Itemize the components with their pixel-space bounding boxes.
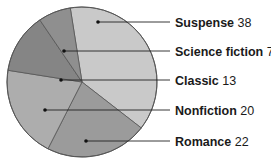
label-value: 7 (267, 45, 271, 59)
data-label-nonfiction: Nonfiction 20 (175, 104, 254, 118)
leader-dot-romance (84, 139, 88, 143)
data-label-romance: Romance 22 (175, 135, 249, 149)
leader-dot-science-fiction (62, 49, 66, 53)
label-name: Romance (175, 135, 235, 149)
pie-chart: Suspense 38Science fiction 7Classic 13No… (0, 0, 271, 162)
label-value: 38 (238, 16, 252, 30)
label-value: 22 (235, 135, 249, 149)
label-name: Science fiction (175, 45, 267, 59)
label-value: 20 (240, 104, 254, 118)
data-label-suspense: Suspense 38 (175, 16, 251, 30)
label-value: 13 (222, 74, 236, 88)
label-name: Nonfiction (175, 104, 240, 118)
leader-dot-nonfiction (43, 108, 47, 112)
data-label-science-fiction: Science fiction 7 (175, 45, 271, 59)
leader-dot-suspense (96, 20, 100, 24)
label-name: Suspense (175, 16, 238, 30)
label-name: Classic (175, 74, 222, 88)
leader-dot-classic (59, 78, 63, 82)
data-label-classic: Classic 13 (175, 74, 236, 88)
